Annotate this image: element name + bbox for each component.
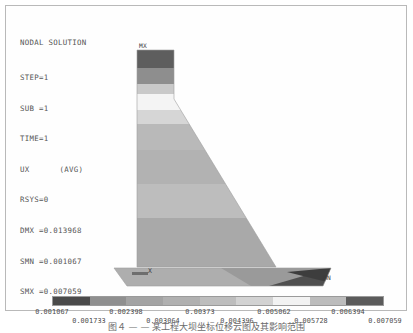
model-viewport[interactable] bbox=[101, 36, 346, 291]
legend-tick-0: 0.001067 bbox=[35, 308, 69, 316]
legend-swatch-5 bbox=[236, 297, 273, 305]
legend-tick-8: 0.006394 bbox=[331, 308, 365, 316]
pylon-contour-bands bbox=[101, 46, 346, 270]
max-value-marker: MX bbox=[139, 42, 147, 49]
legend-swatch-8 bbox=[346, 297, 383, 305]
axis-triad-icon bbox=[132, 272, 148, 275]
plot-frame: NODAL SOLUTION STEP=1 SUB =1 TIME=1 UX(A… bbox=[5, 5, 407, 311]
avg-label: (AVG) bbox=[60, 165, 84, 175]
legend-swatch-6 bbox=[273, 297, 310, 305]
solution-title: NODAL SOLUTION bbox=[20, 38, 87, 48]
time-line: TIME=1 bbox=[20, 134, 87, 144]
step-line: STEP=1 bbox=[20, 73, 87, 83]
component-label: UX bbox=[20, 165, 30, 175]
smn-line: SMN =0.001067 bbox=[20, 257, 87, 267]
legend-tick-6: 0.005062 bbox=[257, 308, 291, 316]
contour-legend-bar[interactable] bbox=[52, 296, 384, 306]
rsys-line: RSYS=0 bbox=[20, 195, 87, 205]
sub-line: SUB =1 bbox=[20, 104, 87, 114]
legend-tick-2: 0.002398 bbox=[109, 308, 143, 316]
legend-swatch-0 bbox=[53, 297, 90, 305]
contour-plot-svg bbox=[101, 36, 346, 291]
legend-swatch-3 bbox=[163, 297, 200, 305]
legend-swatch-1 bbox=[90, 297, 127, 305]
legend-swatch-4 bbox=[200, 297, 237, 305]
legend-swatch-2 bbox=[126, 297, 163, 305]
legend-tick-4: 0.00373 bbox=[185, 308, 214, 316]
dmx-line: DMX =0.013968 bbox=[20, 226, 87, 236]
axis-x-label: X bbox=[148, 267, 152, 275]
min-value-marker: MN bbox=[323, 274, 331, 281]
legend-swatch-7 bbox=[310, 297, 347, 305]
solution-info-block: NODAL SOLUTION STEP=1 SUB =1 TIME=1 UX(A… bbox=[20, 18, 87, 318]
figure-caption: 图４ — — 某工程大坝坐标位移云图及其影响范围 bbox=[0, 320, 413, 333]
component-line: UX(AVG) bbox=[20, 165, 87, 175]
